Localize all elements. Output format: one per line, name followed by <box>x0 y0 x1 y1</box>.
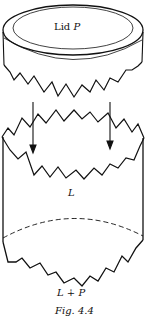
lid-label-var: P <box>73 21 80 32</box>
body-shape <box>2 110 144 286</box>
body-label: L <box>68 187 75 198</box>
sum-label: L ∔ P <box>57 287 85 298</box>
lid-label: Lid P <box>54 21 80 32</box>
figure-caption: Fig. 4.4 <box>55 305 94 316</box>
lid-label-prefix: Lid <box>54 21 73 32</box>
lid-shape <box>3 5 143 97</box>
attach-arrows <box>30 102 113 153</box>
